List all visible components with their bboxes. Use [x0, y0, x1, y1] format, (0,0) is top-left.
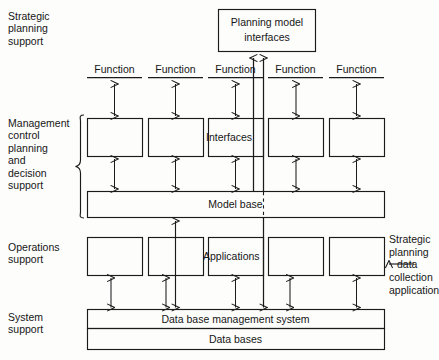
- model-base-label: Model base: [87, 198, 384, 210]
- function-to-interface-arrows: [115, 84, 357, 116]
- applications-callout-label: Applications: [203, 250, 260, 262]
- interface-box-4: [269, 119, 324, 157]
- function-header-3: Function: [208, 63, 263, 75]
- interface-box-1: [88, 119, 143, 157]
- tier-label-operations: Operations support: [8, 241, 84, 266]
- interface-box-5: [330, 119, 385, 157]
- planning-model-interfaces-label-line1: Planning model: [218, 16, 316, 28]
- planning-model-interfaces-label-line2: interfaces: [218, 31, 316, 43]
- tier-label-strategic: Strategic planning support: [8, 10, 80, 47]
- interface-box-2: [149, 119, 204, 157]
- databases-label: Data bases: [87, 333, 384, 345]
- annotation-line-data: data: [397, 258, 417, 270]
- function-header-4: Function: [268, 63, 323, 75]
- function-header-5: Function: [329, 63, 384, 75]
- application-box-4: [269, 238, 324, 276]
- interface-to-modelbase-arrows: [115, 159, 357, 189]
- tier-label-management: Management control planning and decision…: [8, 117, 84, 191]
- tier-label-system: System support: [8, 311, 84, 336]
- application-box-1: [88, 238, 143, 276]
- function-header-1: Function: [87, 63, 142, 75]
- annotation-line-application: application: [389, 284, 439, 296]
- interfaces-callout-label: Interfaces: [206, 131, 252, 143]
- annotation-line-strategic: Strategic: [389, 233, 430, 245]
- figure-canvas: Strategic planning support Management co…: [0, 0, 439, 360]
- annotation-line-planning: planning: [389, 246, 429, 258]
- dbms-label: Data base management system: [87, 313, 384, 325]
- function-header-2: Function: [148, 63, 203, 75]
- annotation-line-collection: collection: [389, 271, 433, 283]
- application-box-5: [330, 238, 385, 276]
- application-to-dbms-arrows: [111, 278, 357, 308]
